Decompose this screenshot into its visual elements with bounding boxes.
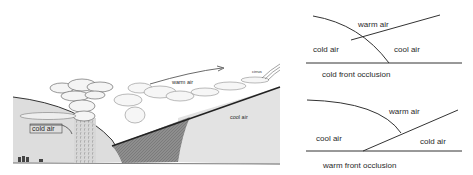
wfo-caption: warm front occlusion	[322, 161, 396, 170]
cold-air-region	[13, 97, 122, 163]
cfo-caption: cold front occlusion	[322, 70, 390, 79]
cfo-cool-air-label: cool air	[394, 45, 420, 54]
warm-front-occlusion-diagram: warm air cool air cold air warm front oc…	[306, 100, 462, 170]
cool-air-region	[178, 87, 280, 165]
left-cool-air-label: cool air	[230, 114, 248, 120]
cfo-warm-air-label: warm air	[357, 20, 389, 29]
cfo-cold-air-label: cold air	[313, 45, 339, 54]
left-cold-air-label: cold air	[32, 125, 55, 132]
stratus-cloud	[20, 113, 76, 120]
left-cirrus-label: cirrus	[252, 69, 262, 74]
cold-front-occlusion-diagram: warm air cold air cool air cold front oc…	[306, 15, 462, 79]
frontal-zone	[112, 117, 190, 163]
wfo-cool-air-label: cool air	[316, 134, 342, 143]
rain-column	[74, 118, 96, 163]
occlusion-diagram: cold air warm air cool air cirrus warm a…	[0, 0, 473, 175]
wfo-cold-air-label: cold air	[420, 137, 446, 146]
left-warm-air-label: warm air	[171, 79, 193, 85]
cold-front-curve	[307, 100, 401, 133]
left-illustration: cold air warm air cool air cirrus	[13, 64, 280, 165]
wfo-warm-air-label: warm air	[388, 107, 420, 116]
